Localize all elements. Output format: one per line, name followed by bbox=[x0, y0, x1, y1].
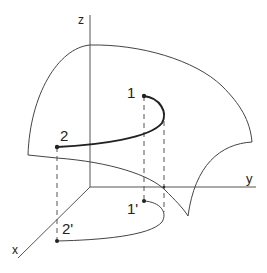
point-2-proj bbox=[55, 239, 59, 243]
point-1-proj-label: 1' bbox=[127, 200, 138, 217]
surface-path bbox=[57, 96, 164, 147]
point-2-proj-label: 2' bbox=[62, 220, 73, 237]
point-1 bbox=[142, 94, 146, 98]
z-axis-label: z bbox=[78, 13, 84, 27]
y-axis-intersection bbox=[163, 186, 166, 189]
point-1-proj bbox=[142, 199, 146, 203]
point-2-label: 2 bbox=[60, 127, 68, 144]
point-2 bbox=[55, 145, 59, 149]
x-axis-label: x bbox=[12, 243, 18, 257]
point-1-label: 1 bbox=[127, 84, 135, 101]
surface-right-edge bbox=[188, 142, 252, 216]
diagram-canvas: z y x 1 2 1' 2' bbox=[0, 0, 267, 273]
y-axis-label: y bbox=[246, 171, 253, 186]
x-axis bbox=[18, 187, 90, 258]
